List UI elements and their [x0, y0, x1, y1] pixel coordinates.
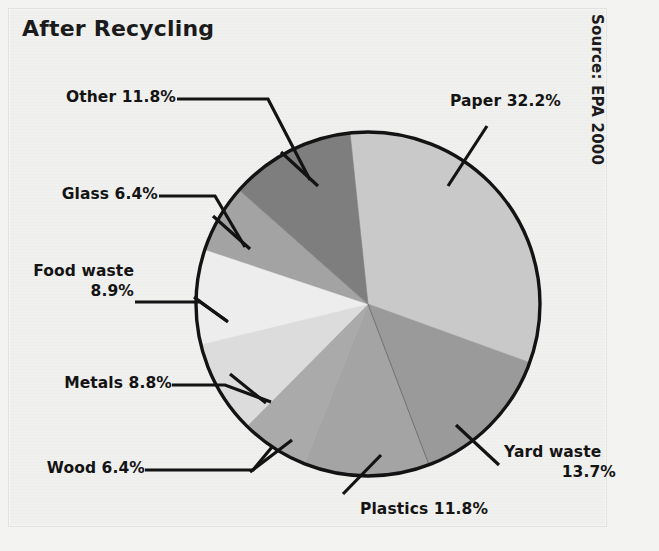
tick-wood	[250, 440, 292, 472]
slice-label-other: Other 11.8%	[14, 88, 176, 106]
slice-label-wood: Wood 6.4%	[14, 459, 145, 477]
source-note: Source: EPA 2000	[588, 14, 606, 224]
slice-label-food-waste-line1: Food waste	[14, 262, 134, 280]
tick-plastics	[343, 455, 381, 494]
leader-line-glass	[159, 196, 245, 247]
slice-label-paper: Paper 32.2%	[450, 92, 630, 110]
slice-label-yard-waste-line2: 13.7%	[504, 463, 616, 481]
tick-yard-waste	[456, 425, 499, 465]
tick-paper	[448, 126, 487, 186]
slice-label-yard-waste-line1: Yard waste	[504, 443, 634, 461]
tick-food-waste	[194, 297, 228, 322]
slice-label-plastics: Plastics 11.8%	[360, 500, 540, 518]
slice-label-metals: Metals 8.8%	[14, 374, 172, 392]
leader-line-other	[177, 99, 310, 180]
chart-title: After Recycling	[22, 16, 214, 41]
slice-label-glass: Glass 6.4%	[14, 185, 158, 203]
slice-label-food-waste-line2: 8.9%	[14, 282, 134, 300]
chart-screenshot: After Recycling Source: EPA 2000 Other 1…	[0, 0, 659, 551]
leader-line-wood	[145, 447, 272, 470]
